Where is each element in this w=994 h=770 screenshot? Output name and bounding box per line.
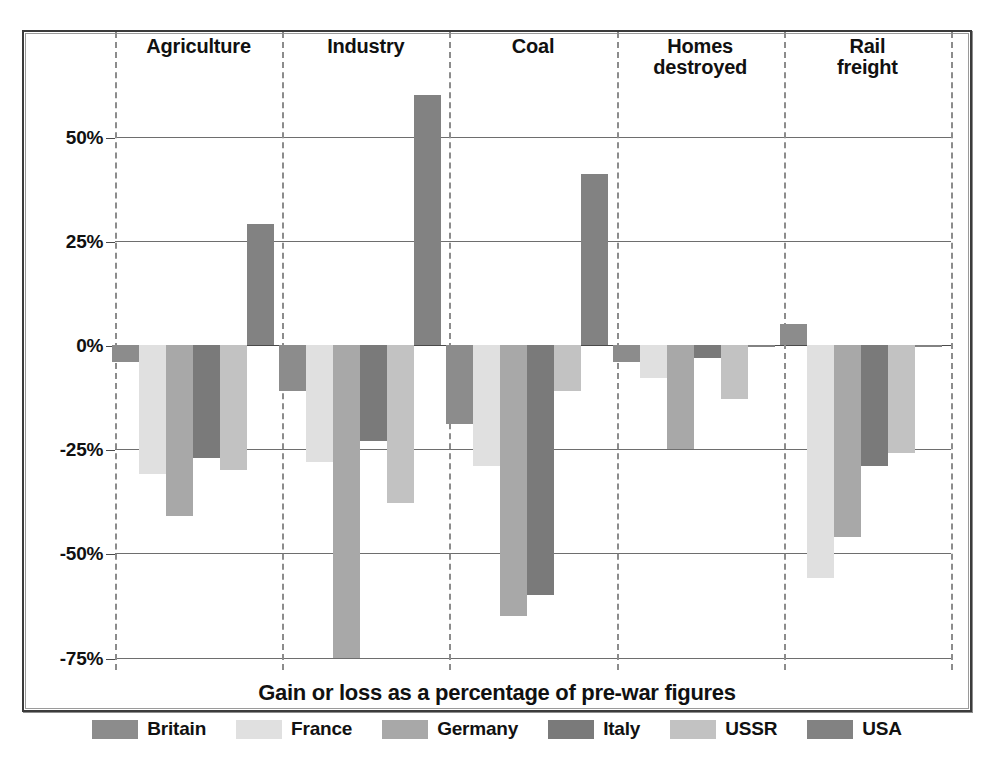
bar-germany-rail-freight: [834, 345, 861, 537]
bar-france-industry: [306, 345, 333, 462]
bar-italy-agriculture: [193, 345, 220, 457]
legend-item-france[interactable]: France: [236, 718, 352, 740]
legend-label: USSR: [725, 718, 777, 740]
bar-usa-coal: [581, 174, 608, 345]
group-label-agriculture: Agriculture: [146, 36, 250, 57]
bar-ussr-coal: [554, 345, 581, 391]
bar-britain-coal: [446, 345, 473, 424]
bar-germany-homes-destroyed: [667, 345, 694, 449]
bar-italy-rail-freight: [861, 345, 888, 466]
legend-swatch-britain: [92, 720, 138, 739]
y-tickmark: [106, 138, 115, 139]
bar-italy-industry: [360, 345, 387, 441]
bar-france-coal: [473, 345, 500, 466]
bar-britain-agriculture: [112, 345, 139, 362]
bar-ussr-rail-freight: [888, 345, 915, 453]
bar-germany-industry: [333, 345, 360, 657]
legend-swatch-france: [236, 720, 282, 739]
legend-item-germany[interactable]: Germany: [382, 718, 518, 740]
bar-italy-homes-destroyed: [694, 345, 721, 357]
group-label-rail-freight: Rail freight: [837, 36, 898, 78]
group-label-industry: Industry: [327, 36, 404, 57]
legend-item-britain[interactable]: Britain: [92, 718, 206, 740]
bar-usa-rail-freight: [915, 345, 942, 347]
y-tickmark: [106, 450, 115, 451]
bar-britain-homes-destroyed: [613, 345, 640, 362]
bar-usa-agriculture: [247, 224, 274, 345]
group-label-coal: Coal: [512, 36, 555, 57]
y-axis-tick-label: -75%: [60, 648, 103, 670]
bar-usa-homes-destroyed: [748, 345, 775, 347]
legend-label: USA: [862, 718, 902, 740]
y-tickmark: [106, 242, 115, 243]
bar-britain-rail-freight: [780, 324, 807, 345]
legend-item-italy[interactable]: Italy: [548, 718, 640, 740]
y-axis-tick-label: -25%: [60, 439, 103, 461]
legend-label: Italy: [603, 718, 640, 740]
bar-france-agriculture: [139, 345, 166, 474]
legend-swatch-germany: [382, 720, 428, 739]
bar-usa-industry: [414, 95, 441, 345]
legend-item-usa[interactable]: USA: [807, 718, 902, 740]
gridline-25: 25%: [115, 241, 951, 242]
legend-swatch-ussr: [670, 720, 716, 739]
y-axis-tick-label: 50%: [66, 127, 103, 149]
bar-germany-agriculture: [166, 345, 193, 516]
gridline-50: 50%: [115, 137, 951, 138]
bar-france-homes-destroyed: [640, 345, 667, 378]
group-separator: [951, 32, 953, 670]
y-axis-tick-label: 0%: [76, 335, 103, 357]
bar-ussr-homes-destroyed: [721, 345, 748, 399]
legend-swatch-usa: [807, 720, 853, 739]
legend-swatch-italy: [548, 720, 594, 739]
y-tickmark: [106, 659, 115, 660]
bar-france-rail-freight: [807, 345, 834, 578]
legend-label: Britain: [147, 718, 206, 740]
gridline-neg75: -75%: [115, 658, 951, 659]
chart-caption: Gain or loss as a percentage of pre-war …: [24, 680, 970, 706]
bar-britain-industry: [279, 345, 306, 391]
y-tickmark: [106, 554, 115, 555]
group-label-homes-destroyed: Homes destroyed: [653, 36, 747, 78]
legend-item-ussr[interactable]: USSR: [670, 718, 777, 740]
legend-label: Germany: [437, 718, 518, 740]
chart-frame: 50%25%0%-25%-50%-75%AgricultureIndustryC…: [22, 30, 972, 712]
bar-italy-coal: [527, 345, 554, 595]
bar-ussr-agriculture: [220, 345, 247, 470]
y-axis-tick-label: -50%: [60, 543, 103, 565]
plot-area: 50%25%0%-25%-50%-75%AgricultureIndustryC…: [115, 62, 951, 670]
y-axis-tick-label: 25%: [66, 231, 103, 253]
chart-legend: BritainFranceGermanyItalyUSSRUSA: [24, 718, 970, 740]
group-separator: [784, 32, 786, 670]
bar-germany-coal: [500, 345, 527, 616]
bar-ussr-industry: [387, 345, 414, 503]
legend-label: France: [291, 718, 352, 740]
